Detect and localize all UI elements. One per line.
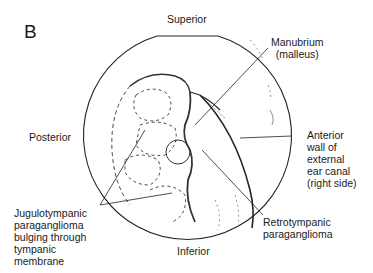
label-inferior: Inferior — [177, 245, 210, 257]
manubrium-and-anterior-wall — [190, 40, 273, 230]
leader-jugulotympanic-b — [100, 193, 172, 205]
label-retrotympanic: Retrotympanic paraganglioma — [263, 216, 332, 240]
jugulotympanic-mass — [112, 74, 195, 222]
label-anterior-wall: Anterior wall of external ear canal (rig… — [307, 129, 357, 189]
otoscopic-diagram: B Superior Posterior Inferior Manubrium … — [0, 0, 373, 273]
label-jugulotympanic: Jugulotympanic paraganglioma bulging thr… — [14, 207, 87, 267]
label-posterior: Posterior — [29, 131, 71, 143]
label-superior: Superior — [167, 13, 207, 25]
panel-letter: B — [24, 22, 37, 42]
leader-retrotympanic — [202, 150, 263, 215]
leader-anterior-wall — [240, 136, 292, 138]
otoscope-field-outline — [84, 36, 292, 239]
label-manubrium: Manubrium (malleus) — [271, 36, 324, 60]
leader-lines — [100, 48, 292, 215]
leader-manubrium — [195, 48, 268, 125]
